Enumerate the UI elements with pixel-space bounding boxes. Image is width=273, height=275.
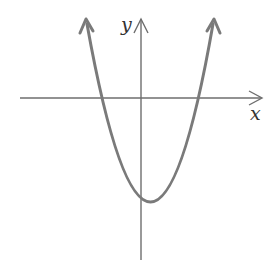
x-axis-label: x [250, 102, 261, 124]
y-axis [134, 19, 148, 260]
parabola-graph: y x [0, 0, 273, 275]
y-axis-label: y [120, 13, 132, 35]
parabola-curve [87, 24, 213, 202]
